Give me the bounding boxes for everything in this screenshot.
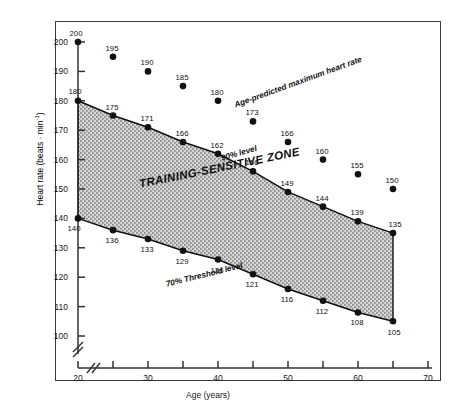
x-tick-label: 30 — [134, 373, 162, 383]
data-point — [250, 118, 257, 125]
chart-figure: Heart rate (beats · min-1) Age (years) T… — [0, 0, 456, 416]
data-point-label: 139 — [346, 208, 368, 217]
data-point-label: 173 — [241, 108, 263, 117]
data-point — [285, 189, 292, 196]
data-point-label: 136 — [101, 236, 123, 245]
data-point-label: 112 — [311, 307, 333, 316]
data-point-label: 200 — [65, 29, 87, 38]
x-axis-title: Age (years) — [186, 390, 230, 400]
data-point-label: 105 — [383, 328, 405, 337]
data-point — [75, 215, 82, 222]
y-tick-label: 180 — [36, 96, 68, 106]
data-point-label: 129 — [171, 257, 193, 266]
y-tick-label: 100 — [36, 331, 68, 341]
data-point — [110, 227, 117, 234]
data-point-label: 155 — [346, 161, 368, 170]
data-point-label: 156 — [241, 158, 263, 167]
data-point-label: 195 — [101, 44, 123, 53]
data-point-label: 175 — [101, 103, 123, 112]
data-point — [75, 98, 82, 105]
data-point-label: 121 — [241, 280, 263, 289]
data-point — [75, 39, 82, 46]
y-tick-label: 190 — [36, 66, 68, 76]
data-point-label: 185 — [171, 73, 193, 82]
y-tick-label: 200 — [36, 37, 68, 47]
y-tick-label: 140 — [36, 213, 68, 223]
data-point — [110, 53, 117, 60]
data-point — [320, 297, 327, 304]
data-point — [390, 318, 397, 325]
y-tick-label: 120 — [36, 272, 68, 282]
data-point — [145, 124, 152, 131]
data-point — [355, 218, 362, 225]
data-point — [215, 98, 222, 105]
data-point — [145, 236, 152, 243]
data-point-label: 150 — [381, 176, 403, 185]
data-point-label: 126 — [206, 266, 228, 275]
data-point-label: 135 — [384, 220, 406, 229]
data-point — [215, 256, 222, 263]
data-point — [180, 247, 187, 254]
y-tick-label: 110 — [36, 302, 68, 312]
data-point-label: 171 — [136, 114, 158, 123]
y-tick-label: 150 — [36, 184, 68, 194]
y-axis-exponent: -1 — [34, 115, 40, 120]
data-point — [250, 271, 257, 278]
data-point-label: 166 — [276, 129, 298, 138]
data-point — [145, 68, 152, 75]
x-tick-label: 50 — [274, 373, 302, 383]
x-tick-label: 40 — [204, 373, 232, 383]
data-point — [285, 139, 292, 146]
data-point — [180, 83, 187, 90]
data-point-label: 180 — [206, 88, 228, 97]
data-point-label: 144 — [311, 194, 333, 203]
data-point — [390, 186, 397, 193]
data-point — [110, 112, 117, 119]
data-point-label: 190 — [136, 58, 158, 67]
data-point-label: 108 — [346, 318, 368, 327]
x-tick-label: 70 — [414, 373, 442, 383]
data-point-label: 149 — [276, 179, 298, 188]
data-point — [285, 286, 292, 293]
data-point — [355, 309, 362, 316]
data-point — [390, 230, 397, 237]
data-point — [320, 156, 327, 163]
data-point — [180, 139, 187, 146]
data-point-label: 133 — [136, 245, 158, 254]
data-point — [355, 171, 362, 178]
data-point — [320, 203, 327, 210]
data-point-label: 180 — [64, 87, 86, 96]
x-tick-label: 20 — [64, 373, 92, 383]
y-tick-label: 170 — [36, 125, 68, 135]
x-tick-label: 60 — [344, 373, 372, 383]
y-tick-label: 160 — [36, 155, 68, 165]
data-point-label: 116 — [276, 295, 298, 304]
data-point-label: 160 — [311, 147, 333, 156]
data-point — [250, 168, 257, 175]
chart-plot-area — [0, 0, 456, 416]
data-point-label: 166 — [171, 129, 193, 138]
y-tick-label: 130 — [36, 243, 68, 253]
data-point-label: 140 — [63, 224, 85, 233]
data-point-label: 162 — [206, 141, 228, 150]
